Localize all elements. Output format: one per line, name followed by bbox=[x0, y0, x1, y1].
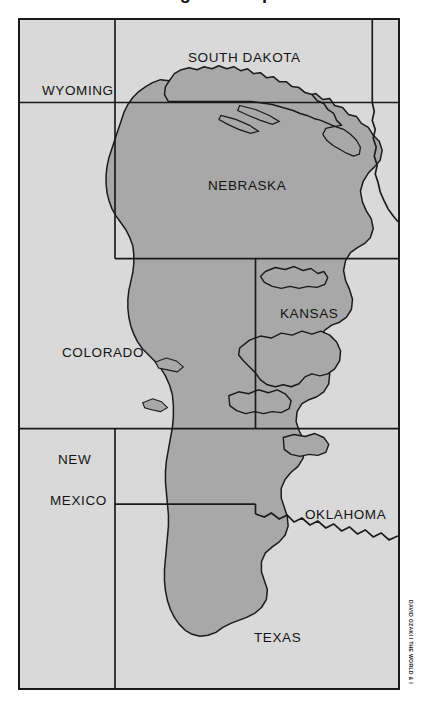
figure-title-strip: The Ogallala Aquifer bbox=[0, 0, 435, 7]
map-drawing bbox=[20, 20, 398, 688]
ogallala-aquifer-map: SOUTH DAKOTA WYOMING NEBRASKA KANSAS COL… bbox=[18, 18, 400, 690]
aquifer-oklahoma-panhandle bbox=[283, 434, 329, 457]
credit-text: DAVID OZAKI / THE WORLD & I bbox=[408, 600, 414, 684]
credit-container: DAVID OZAKI / THE WORLD & I bbox=[404, 600, 418, 710]
aquifer-kansas-lobe-south bbox=[229, 390, 291, 414]
figure-title: The Ogallala Aquifer bbox=[0, 0, 435, 4]
